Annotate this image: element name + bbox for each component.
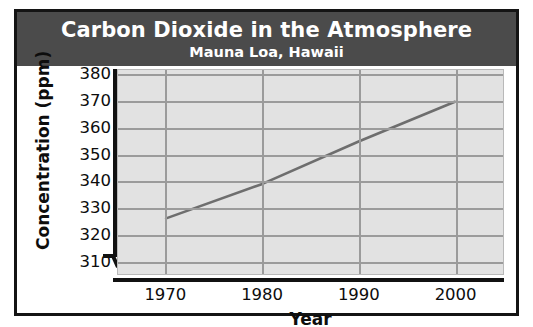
x-tick-label: 1980: [241, 285, 283, 304]
y-tick-label: 370: [59, 93, 111, 109]
y-axis-tick-labels: 310320330340350360370380: [59, 69, 111, 255]
gridline-vertical: [165, 70, 167, 274]
x-tick-label: 2000: [435, 285, 477, 304]
chart-figure: Carbon Dioxide in the Atmosphere Mauna L…: [14, 9, 519, 316]
gridline-horizontal: [118, 74, 503, 76]
plot-area: [117, 69, 504, 275]
x-tick-label: 1970: [144, 285, 186, 304]
x-axis-tick-labels: 1970198019902000: [117, 285, 504, 309]
gridline-horizontal: [118, 128, 503, 130]
chart-title: Carbon Dioxide in the Atmosphere: [61, 18, 472, 43]
gridline-horizontal: [118, 262, 503, 264]
y-tick-label: 380: [59, 66, 111, 82]
y-tick-label: 330: [59, 200, 111, 216]
gridline-vertical: [456, 70, 458, 274]
gridline-horizontal: [118, 155, 503, 157]
y-tick-label: 350: [59, 147, 111, 163]
y-tick-label: 340: [59, 173, 111, 189]
x-tick-label: 1990: [338, 285, 380, 304]
gridline-horizontal: [118, 181, 503, 183]
chart-subtitle: Mauna Loa, Hawaii: [189, 43, 343, 61]
gridline-horizontal: [118, 101, 503, 103]
chart-plot-region: Concentration (ppm) 31032033034035036037…: [17, 66, 516, 313]
x-axis-title: Year: [117, 309, 504, 327]
gridline-vertical: [359, 70, 361, 274]
y-axis-title: Concentration (ppm): [33, 70, 53, 250]
gridline-horizontal: [118, 235, 503, 237]
gridline-horizontal: [118, 208, 503, 210]
y-tick-label: 320: [59, 227, 111, 243]
x-axis-spine: [113, 278, 504, 282]
gridline-vertical: [262, 70, 264, 274]
chart-header-band: Carbon Dioxide in the Atmosphere Mauna L…: [17, 12, 516, 66]
y-tick-label: 360: [59, 120, 111, 136]
